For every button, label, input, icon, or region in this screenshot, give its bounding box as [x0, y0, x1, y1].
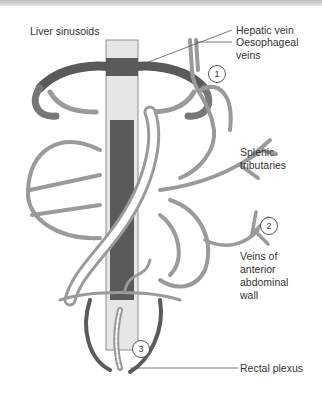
- label-rectal-plexus: Rectal plexus: [240, 362, 303, 375]
- label-splenic-line2: tributaries: [240, 159, 286, 172]
- label-abdominal-line4: wall: [240, 289, 258, 302]
- anterior-abdominal-veins: [205, 212, 268, 245]
- label-oesophageal-line1: Oesophageal: [236, 36, 298, 49]
- label-splenic-line1: Splenic: [240, 146, 274, 159]
- portal-systemic-diagram: [0, 0, 322, 408]
- marker-2: 2: [260, 217, 278, 235]
- label-abdominal-line1: Veins of: [240, 250, 277, 263]
- marker-1: 1: [208, 65, 226, 83]
- label-abdominal-line3: abdominal: [240, 276, 288, 289]
- label-oesophageal-line2: veins: [236, 49, 261, 62]
- label-liver-sinusoids: Liver sinusoids: [30, 25, 99, 38]
- marker-3: 3: [132, 340, 150, 358]
- label-abdominal-line2: anterior: [240, 263, 276, 276]
